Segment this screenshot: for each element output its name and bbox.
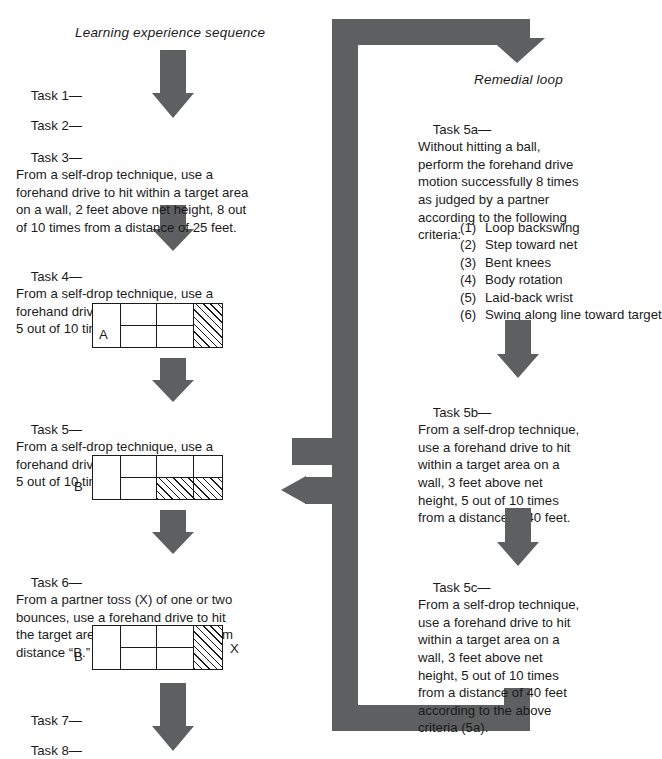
target-b6-cell-3-top (157, 626, 192, 648)
task-5a-label: Task 5a— (433, 122, 492, 137)
target-b6-side-label-right: X (230, 641, 239, 656)
target-b5-col-4 (194, 456, 222, 499)
criteria-5-text: Laid-back wrist (485, 290, 573, 305)
task-8-label: Task 8— (31, 743, 82, 758)
criteria-4-text: Body rotation (485, 272, 563, 287)
criteria-2-text: Step toward net (485, 237, 577, 252)
task-5c-label: Task 5c— (433, 580, 491, 595)
task-6-label: Task 6— (31, 575, 82, 590)
flow-arrow-left-3 (138, 358, 208, 406)
target-b5-cell-3-bottom-hatched (157, 478, 192, 499)
target-b6-col-2 (121, 626, 157, 669)
target-b6-cell-4-hatched (194, 626, 222, 669)
target-b5-cell-2-top (121, 456, 156, 478)
target-b6-col-3 (157, 626, 193, 669)
task-4-label: Task 4— (31, 269, 82, 284)
criteria-5-number: (5) (460, 289, 485, 306)
criteria-1-text: Loop backswing (485, 220, 580, 235)
target-a-cell-4-hatched (194, 304, 222, 347)
target-a-col-2 (121, 304, 157, 347)
loop-top-arrowhead (489, 38, 545, 63)
loop-trunk-vertical (332, 19, 358, 731)
target-a-inside-label: A (99, 327, 108, 342)
task-3-label: Task 3— (31, 150, 82, 165)
target-b6-cell-3-bottom (157, 648, 192, 669)
task-5c-body: From a self-drop technique, use a foreha… (418, 596, 590, 737)
criteria-list: (1)Loop backswing (2)Step toward net (3)… (460, 219, 660, 323)
flow-arrow-right-1 (483, 320, 553, 380)
target-b5-cell-3-top (157, 456, 192, 478)
flow-arrow-right-2 (483, 508, 553, 568)
criteria-3-number: (3) (460, 254, 485, 271)
target-a-col-4 (194, 304, 222, 347)
target-b6-col-1 (93, 626, 121, 669)
right-column-heading: Remedial loop (474, 72, 563, 87)
target-b6-cell-2-top (121, 626, 156, 648)
target-b5-cell-4-bottom-hatched (194, 478, 222, 499)
criteria-item-5: (5)Laid-back wrist (460, 289, 660, 306)
target-b6-col-4 (194, 626, 222, 669)
target-a-cell-2-top (121, 304, 156, 326)
flow-arrow-left-4 (138, 510, 208, 558)
target-b5-cell-1 (93, 456, 120, 499)
target-diagram-a (92, 303, 223, 348)
criteria-4-number: (4) (460, 271, 485, 288)
target-a-cell-2-bottom (121, 326, 156, 347)
target-b6-cell-2-bottom (121, 648, 156, 669)
task-5-label: Task 5— (31, 422, 82, 437)
criteria-item-3: (3)Bent knees (460, 254, 660, 271)
task-5b-label: Task 5b— (433, 405, 492, 420)
task-3-body: From a self-drop technique, use a foreha… (16, 166, 275, 236)
target-b6-cell-1 (93, 626, 120, 669)
task-8: Task 8— (16, 724, 316, 759)
loop-top-arrow-shaft (504, 19, 530, 40)
criteria-6-number: (6) (460, 306, 485, 323)
target-b5-col-1 (93, 456, 121, 499)
criteria-3-text: Bent knees (485, 255, 551, 270)
target-b5-col-3 (157, 456, 193, 499)
criteria-2-number: (2) (460, 236, 485, 253)
target-diagram-b-6 (92, 625, 223, 670)
target-a-cell-3-top (157, 304, 192, 326)
target-a-cell-3-bottom (157, 326, 192, 347)
target-diagram-b-5 (92, 455, 223, 500)
criteria-item-1: (1)Loop backswing (460, 219, 660, 236)
target-b5-side-label: B (74, 479, 83, 494)
criteria-item-4: (4)Body rotation (460, 271, 660, 288)
target-b5-cell-2-bottom (121, 478, 156, 499)
target-b5-cell-4-top (194, 456, 222, 478)
task-5c: Task 5c—From a self-drop technique, use … (418, 561, 648, 755)
criteria-item-2: (2)Step toward net (460, 236, 660, 253)
target-b5-col-2 (121, 456, 157, 499)
target-a-col-3 (157, 304, 193, 347)
left-column-heading: Learning experience sequence (75, 25, 265, 40)
target-b6-side-label-left: B (74, 649, 83, 664)
task-3: Task 3—From a self-drop technique, use a… (16, 131, 326, 254)
criteria-1-number: (1) (460, 219, 485, 236)
